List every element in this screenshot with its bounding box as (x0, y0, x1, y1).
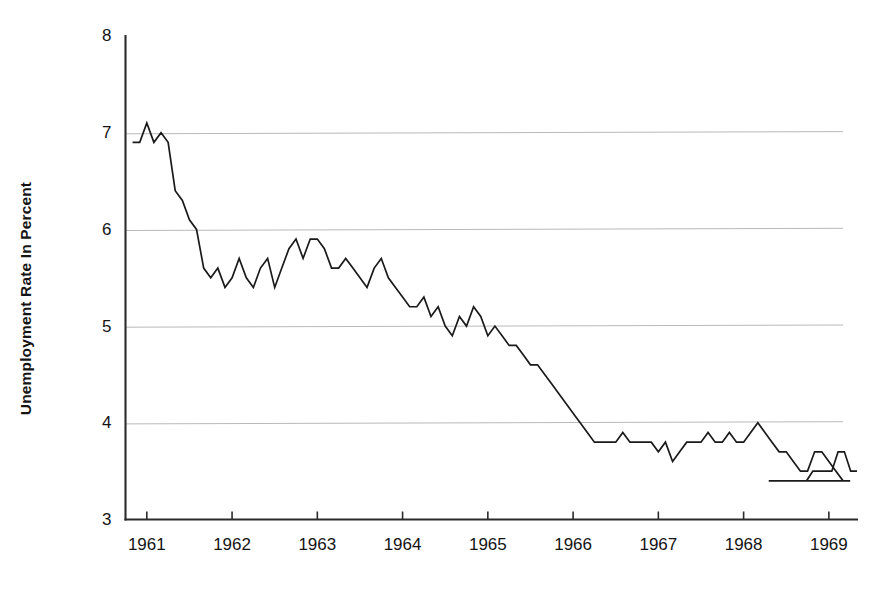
unemployment-rate-chart: Unemployment Rate In Percent 345678 1961… (0, 0, 891, 597)
y-tick-label-7: 7 (102, 123, 111, 142)
x-tick-label-1964: 1964 (384, 535, 422, 554)
y-tick-label-3: 3 (102, 510, 111, 529)
x-tick-label-1968: 1968 (725, 535, 763, 554)
y-axis-tick-labels: 345678 (102, 26, 111, 529)
gridline-6 (126, 228, 844, 230)
x-tick-label-1967: 1967 (639, 535, 677, 554)
y-tick-label-5: 5 (102, 317, 111, 336)
x-tick-label-1963: 1963 (298, 535, 336, 554)
x-axis-tick-labels: 196119621963196419651966196719681969 (128, 535, 848, 554)
gridlines (126, 132, 844, 424)
x-tick-label-1962: 1962 (213, 535, 251, 554)
gridline-4 (126, 422, 844, 424)
chart-plot-area: 345678 196119621963196419651966196719681… (0, 0, 891, 597)
x-tick-label-1966: 1966 (554, 535, 592, 554)
x-tick-label-1965: 1965 (469, 535, 507, 554)
y-tick-label-4: 4 (102, 413, 111, 432)
unemployment-rate-series-line (133, 123, 857, 481)
y-tick-label-8: 8 (102, 26, 111, 45)
x-tick-label-1969: 1969 (810, 535, 848, 554)
y-tick-label-6: 6 (102, 220, 111, 239)
x-tick-label-1961: 1961 (128, 535, 166, 554)
gridline-7 (126, 132, 844, 134)
axis-tick-marks (147, 512, 829, 520)
